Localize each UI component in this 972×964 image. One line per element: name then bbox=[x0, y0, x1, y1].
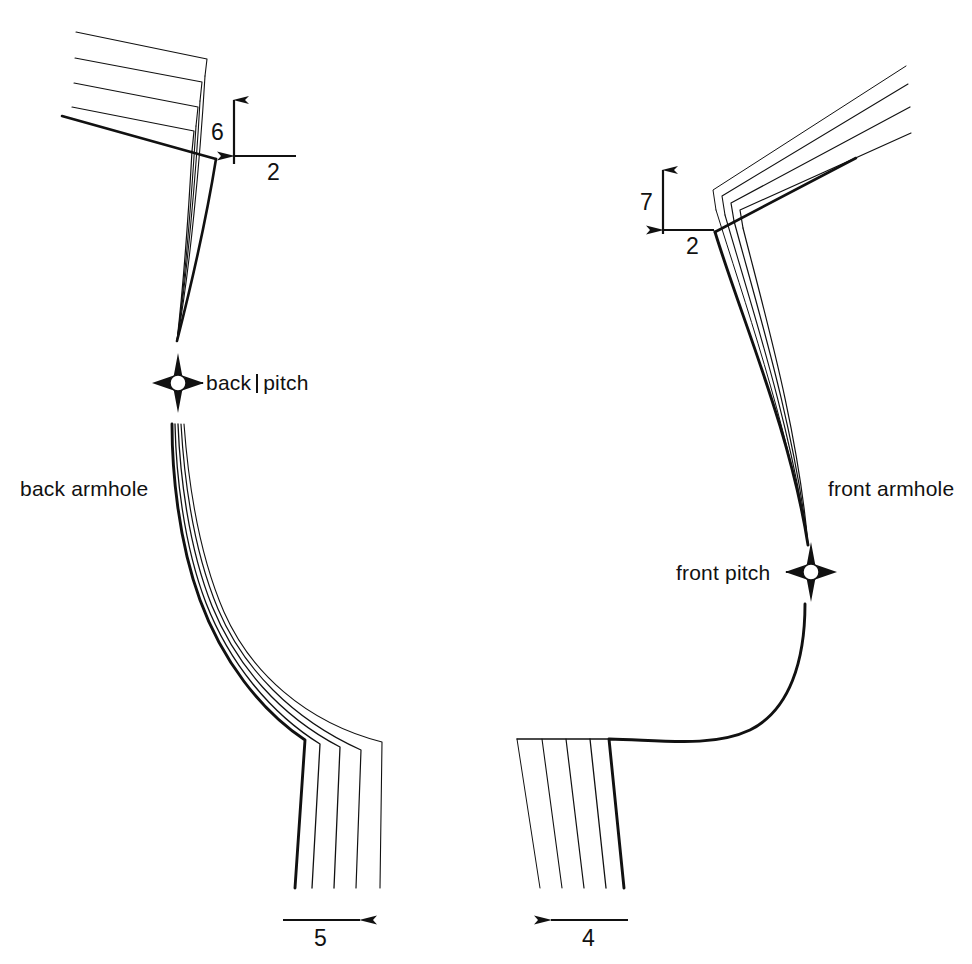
front-underarm-line-4 bbox=[542, 739, 562, 888]
front-armhole-upper-line-3 bbox=[734, 221, 808, 545]
back-horizontal-dimension-value: 2 bbox=[267, 159, 280, 186]
front-shoulder-line-3 bbox=[731, 107, 910, 221]
back-pitch-center-dot bbox=[170, 375, 186, 391]
front-armhole-upper-line-1-bold bbox=[715, 232, 808, 545]
back-shoulder-line-2 bbox=[72, 107, 194, 151]
front-armhole-label: front armhole bbox=[828, 477, 954, 501]
front-shoulder-line-1-bold bbox=[715, 158, 856, 232]
back-armhole-label: back armhole bbox=[20, 477, 148, 501]
front-pitch-label: front pitch bbox=[676, 561, 770, 585]
front-pitch-center-dot bbox=[803, 564, 819, 580]
back-pitch-label-word-2: pitch bbox=[263, 371, 308, 394]
front-armhole-upper-line-5 bbox=[716, 210, 808, 545]
front-underarm-line-1-bold bbox=[609, 604, 805, 888]
back-vertical-dimension-value: 6 bbox=[211, 119, 224, 146]
back-shoulder-nest bbox=[62, 32, 216, 159]
back-pitch-marker bbox=[152, 353, 204, 413]
back-underarm-dimension-value: 5 bbox=[314, 925, 327, 952]
back-pitch-label-word-1: back bbox=[206, 371, 251, 394]
front-pitch-marker bbox=[785, 542, 837, 602]
back-shoulder-line-5 bbox=[76, 32, 207, 76]
back-shoulder-line-4 bbox=[75, 58, 202, 101]
front-armhole-upper-nest bbox=[715, 210, 808, 545]
back-pitch-label-separator bbox=[256, 374, 258, 393]
back-armhole-upper-nest bbox=[177, 76, 216, 341]
back-pitch-label: backpitch bbox=[206, 371, 309, 395]
front-horizontal-dimension-value: 2 bbox=[686, 233, 699, 260]
armhole-grading-diagram: backpitch front pitch back armhole front… bbox=[0, 0, 972, 964]
front-shoulder-nest bbox=[713, 66, 911, 232]
back-armhole-lower-line-5 bbox=[184, 424, 382, 888]
front-shoulder-line-5 bbox=[713, 66, 906, 210]
front-underarm-line-3 bbox=[566, 739, 584, 888]
front-underarm-dimension-value: 4 bbox=[582, 925, 595, 952]
front-vertical-dimension-value: 7 bbox=[640, 189, 653, 216]
front-underarm-line-5 bbox=[517, 739, 540, 888]
back-armhole-lower-line-4 bbox=[181, 424, 361, 888]
front-underarm-line-2 bbox=[590, 739, 606, 888]
front-armhole-lower-nest bbox=[517, 604, 805, 888]
front-shoulder-line-4 bbox=[722, 84, 908, 215]
front-shoulder-line-2 bbox=[740, 133, 911, 228]
back-armhole-lower-nest bbox=[172, 424, 382, 888]
